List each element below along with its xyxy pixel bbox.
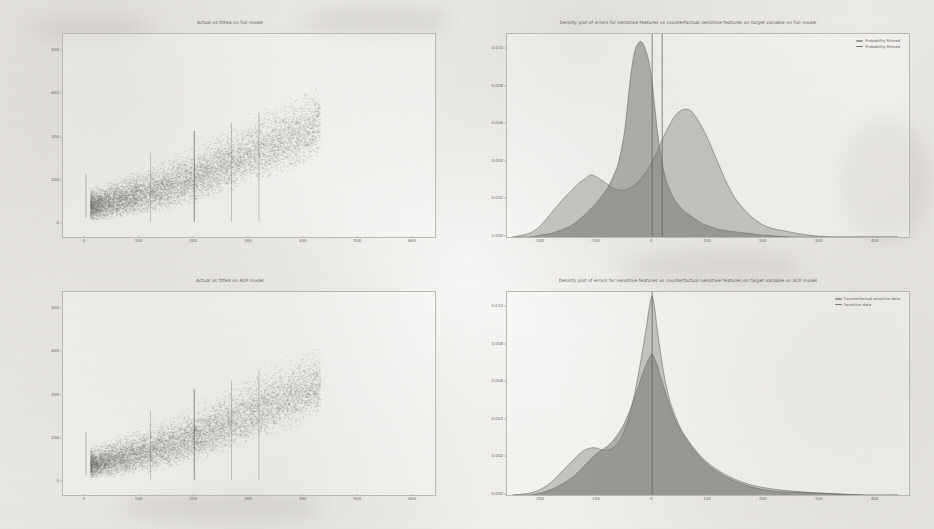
x-axis-tick-mark bbox=[83, 236, 84, 238]
x-axis-tick-mark bbox=[818, 494, 819, 496]
x-axis-tick-label: 0 bbox=[650, 239, 653, 243]
x-axis-tick-label: 600 bbox=[408, 497, 416, 501]
x-axis-tick-label: 0 bbox=[650, 497, 653, 501]
y-axis-tick-label: 0.000 bbox=[492, 492, 503, 496]
x-axis-tick-mark bbox=[138, 236, 139, 238]
plot-axes-density-errors-acf bbox=[506, 291, 910, 496]
x-axis-tick-mark bbox=[707, 494, 708, 496]
x-axis-tick-mark bbox=[762, 236, 763, 238]
panel-actual-vs-fitted-full-model: Actual vs fitted on full model 020040060… bbox=[20, 20, 440, 260]
legend-swatch-icon bbox=[835, 304, 842, 306]
x-axis-tick-label: 100 bbox=[703, 497, 711, 501]
legend-swatch-icon bbox=[856, 40, 863, 42]
x-axis-tick-label: 200 bbox=[759, 497, 767, 501]
plot-axes-actual-vs-fitted-acf bbox=[62, 291, 436, 496]
y-axis-tick-label: 0.000 bbox=[492, 234, 503, 238]
y-axis-tick-mark bbox=[60, 437, 62, 438]
x-axis-tick-label: 300 bbox=[244, 497, 252, 501]
y-axis-tick-label: 600 bbox=[51, 349, 59, 353]
x-axis-tick-mark bbox=[874, 236, 875, 238]
x-axis-tick-mark bbox=[193, 494, 194, 496]
y-axis-tick-mark bbox=[504, 456, 506, 457]
legend-item: Counterfactual sensitive data bbox=[835, 297, 900, 301]
y-axis-tick-mark bbox=[60, 179, 62, 180]
chart-title: Actual vs fitted on ACF model bbox=[20, 278, 440, 284]
x-axis-tick-mark bbox=[193, 236, 194, 238]
y-axis-tick-mark bbox=[60, 223, 62, 224]
x-axis-tick-mark bbox=[83, 494, 84, 496]
y-axis-tick-mark bbox=[504, 418, 506, 419]
x-axis-tick-label: -200 bbox=[535, 497, 544, 501]
y-axis-tick-mark bbox=[60, 394, 62, 395]
chart-title: Density plot of errors for sensitive fea… bbox=[462, 278, 914, 284]
x-axis-tick-mark bbox=[595, 494, 596, 496]
x-axis-tick-mark bbox=[651, 494, 652, 496]
chart-title: Actual vs fitted on full model bbox=[20, 20, 440, 26]
x-axis-tick-mark bbox=[595, 236, 596, 238]
legend-label: Probability filtered bbox=[865, 39, 900, 43]
scatter-point-cloud bbox=[63, 292, 435, 495]
x-axis-tick-mark bbox=[818, 236, 819, 238]
x-axis-tick-label: -200 bbox=[535, 239, 544, 243]
y-axis-tick-label: 0.006 bbox=[492, 379, 503, 383]
x-axis-tick-label: 400 bbox=[871, 239, 879, 243]
legend-item: Probability filtered bbox=[856, 45, 900, 49]
legend-label: Sensitive data bbox=[844, 303, 871, 307]
x-axis-tick-label: 0 bbox=[83, 497, 86, 501]
legend-swatch-icon bbox=[835, 298, 842, 300]
legend-label: Counterfactual sensitive data bbox=[844, 297, 900, 301]
x-axis-tick-label: 300 bbox=[815, 497, 823, 501]
x-axis-tick-mark bbox=[539, 236, 540, 238]
y-axis-tick-mark bbox=[60, 308, 62, 309]
y-axis-tick-label: 0.002 bbox=[492, 196, 503, 200]
y-axis-tick-label: 0.006 bbox=[492, 121, 503, 125]
plot-axes-density-errors-full bbox=[506, 33, 910, 238]
y-axis-tick-mark bbox=[504, 381, 506, 382]
scatter-point-cloud bbox=[63, 34, 435, 237]
y-axis-tick-mark bbox=[60, 351, 62, 352]
panel-actual-vs-fitted-acf-model: Actual vs fitted on ACF model 0200400600… bbox=[20, 278, 440, 518]
y-axis-tick-mark bbox=[504, 306, 506, 307]
x-axis-tick-label: -100 bbox=[591, 239, 600, 243]
y-axis-tick-label: 400 bbox=[51, 135, 59, 139]
density-curves bbox=[507, 292, 909, 495]
x-axis-tick-mark bbox=[357, 494, 358, 496]
y-axis-tick-label: 0.010 bbox=[492, 304, 503, 308]
y-axis-tick-mark bbox=[60, 93, 62, 94]
y-axis-tick-label: 0 bbox=[56, 479, 59, 483]
x-axis-tick-mark bbox=[762, 494, 763, 496]
legend-label: Probability filtered bbox=[865, 45, 900, 49]
y-axis-tick-mark bbox=[504, 343, 506, 344]
y-axis-tick-mark bbox=[60, 50, 62, 51]
legend-item: Probability filtered bbox=[856, 39, 900, 43]
x-axis-tick-label: 500 bbox=[354, 497, 362, 501]
x-axis-tick-label: 0 bbox=[83, 239, 86, 243]
y-axis-tick-mark bbox=[60, 481, 62, 482]
x-axis-tick-mark bbox=[539, 494, 540, 496]
legend-item: Sensitive data bbox=[835, 303, 900, 307]
y-axis-tick-label: 600 bbox=[51, 91, 59, 95]
x-axis-tick-label: 200 bbox=[759, 239, 767, 243]
y-axis-tick-label: 0.004 bbox=[492, 417, 503, 421]
x-axis-tick-mark bbox=[138, 494, 139, 496]
y-axis-tick-label: 0.004 bbox=[492, 159, 503, 163]
x-axis-tick-label: 100 bbox=[703, 239, 711, 243]
y-axis-tick-label: 0 bbox=[56, 221, 59, 225]
y-axis-tick-mark bbox=[504, 160, 506, 161]
y-axis-tick-mark bbox=[504, 494, 506, 495]
y-axis-tick-mark bbox=[504, 85, 506, 86]
x-axis-tick-label: 600 bbox=[408, 239, 416, 243]
x-axis-tick-mark bbox=[248, 494, 249, 496]
x-axis-tick-label: -100 bbox=[591, 497, 600, 501]
x-axis-tick-label: 100 bbox=[135, 239, 143, 243]
legend-swatch-icon bbox=[856, 46, 863, 48]
y-axis-tick-label: 0.008 bbox=[492, 84, 503, 88]
x-axis-tick-mark bbox=[874, 494, 875, 496]
x-axis-tick-label: 400 bbox=[871, 497, 879, 501]
x-axis-tick-label: 400 bbox=[299, 239, 307, 243]
y-axis-tick-label: 200 bbox=[51, 178, 59, 182]
legend-density-full: Probability filtered Probability filtere… bbox=[856, 39, 900, 49]
legend-density-acf: Counterfactual sensitive data Sensitive … bbox=[835, 297, 900, 307]
y-axis-tick-mark bbox=[504, 123, 506, 124]
x-axis-tick-label: 200 bbox=[189, 239, 197, 243]
